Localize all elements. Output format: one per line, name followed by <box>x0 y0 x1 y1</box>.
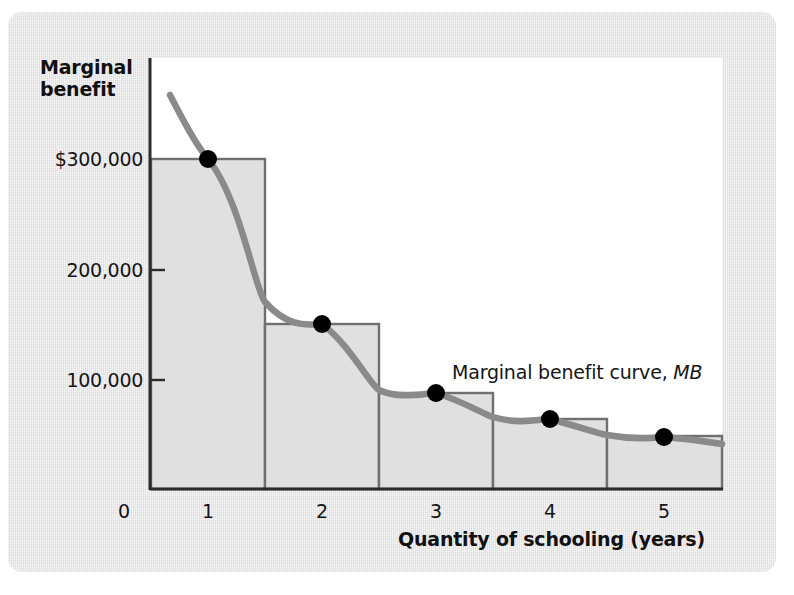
y-tick-label-100000: 100,000 <box>35 369 143 391</box>
curve-annotation-label: Marginal benefit curve, MB <box>452 361 702 383</box>
y-axis-title-line-2: benefit <box>40 78 145 100</box>
y-axis-title-line-1: Marginal <box>40 56 145 78</box>
x-tick-label-3: 3 <box>416 500 456 522</box>
data-point-4 <box>541 410 559 428</box>
y-axis-title: Marginal benefit <box>40 56 145 100</box>
curve-annotation-text: Marginal benefit curve, <box>452 361 667 383</box>
bar-year-2 <box>265 324 379 489</box>
x-tick-label-5: 5 <box>644 500 684 522</box>
x-tick-label-2: 2 <box>302 500 342 522</box>
x-tick-label-0: 0 <box>104 500 144 522</box>
x-axis-title: Quantity of schooling (years) <box>398 528 705 550</box>
x-tick-label-1: 1 <box>188 500 228 522</box>
y-tick-label-300000: $300,000 <box>35 148 143 170</box>
data-point-5 <box>655 428 673 446</box>
data-point-2 <box>313 315 331 333</box>
data-point-1 <box>199 150 217 168</box>
figure-container: Marginal benefit $300,000 200,000 100,00… <box>0 0 794 595</box>
curve-annotation-symbol: MB <box>673 361 702 383</box>
x-tick-label-4: 4 <box>530 500 570 522</box>
data-point-3 <box>427 384 445 402</box>
bar-year-1 <box>151 159 265 489</box>
y-tick-label-200000: 200,000 <box>35 259 143 281</box>
